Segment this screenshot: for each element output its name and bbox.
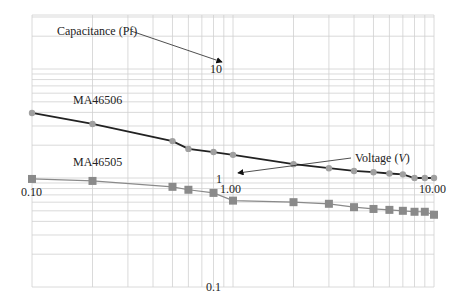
data-point-square	[325, 200, 333, 208]
data-point-diamond	[326, 165, 332, 171]
data-point-diamond	[386, 170, 392, 176]
data-point-square	[430, 211, 438, 219]
data-point-square	[421, 208, 429, 216]
x-tick-10-00: 10.00	[419, 182, 446, 196]
series-label-ma46505: MA46505	[73, 155, 122, 169]
x-tick-0-10: 0.10	[21, 185, 42, 199]
x-tick-1-00: 1.00	[220, 182, 241, 196]
data-point-square	[385, 206, 393, 214]
series-label-ma46506: MA46506	[73, 93, 122, 107]
capacitance-voltage-chart: Capacitance (Pf) Voltage (V) MA46506 MA4…	[0, 0, 467, 302]
data-point-diamond	[29, 110, 35, 116]
y-tick-10: 10	[210, 62, 222, 76]
capacitance-arrow	[131, 31, 222, 62]
data-point-diamond	[169, 138, 175, 144]
voltage-annotation: Voltage (V)	[355, 151, 410, 165]
data-point-diamond	[185, 146, 191, 152]
data-point-diamond	[370, 169, 376, 175]
data-point-square	[350, 203, 358, 211]
capacitance-annotation: Capacitance (Pf)	[57, 24, 137, 38]
data-point-diamond	[431, 175, 437, 181]
data-point-square	[89, 177, 97, 185]
data-point-square	[411, 208, 419, 216]
data-point-square	[399, 207, 407, 215]
data-point-diamond	[400, 171, 406, 177]
data-point-square	[184, 186, 192, 194]
data-point-square	[229, 197, 237, 205]
y-tick-0-1: 0.1	[206, 280, 221, 294]
data-point-square	[28, 175, 36, 183]
voltage-arrow	[238, 158, 351, 173]
data-point-diamond	[422, 175, 428, 181]
data-point-diamond	[230, 152, 236, 158]
data-point-diamond	[351, 168, 357, 174]
data-point-diamond	[210, 149, 216, 155]
data-point-square	[210, 189, 218, 197]
data-point-diamond	[411, 175, 417, 181]
y-tick-1: 1	[216, 172, 222, 186]
data-point-square	[369, 205, 377, 213]
data-point-square	[290, 198, 298, 206]
data-point-square	[168, 183, 176, 191]
data-point-diamond	[89, 121, 95, 127]
data-point-diamond	[290, 161, 296, 167]
